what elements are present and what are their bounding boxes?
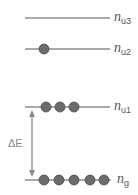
delta-e-arrow-icon bbox=[29, 110, 35, 177]
label-n: n bbox=[114, 40, 121, 55]
particles-u2 bbox=[39, 44, 49, 54]
particle-icon bbox=[85, 175, 95, 185]
particle-icon bbox=[55, 102, 65, 112]
level-label-u2: nu2 bbox=[114, 41, 131, 57]
level-label-u1: nu1 bbox=[114, 99, 131, 115]
particles-u1 bbox=[41, 102, 79, 112]
particle-icon bbox=[99, 175, 109, 185]
label-sub: u2 bbox=[121, 47, 131, 57]
label-sub: g bbox=[124, 178, 129, 188]
particle-icon bbox=[69, 175, 79, 185]
delta-e-label: ΔE bbox=[8, 137, 23, 149]
particle-icon bbox=[69, 102, 79, 112]
label-n: n bbox=[114, 98, 121, 113]
label-n: n bbox=[114, 9, 121, 24]
particle-icon bbox=[39, 44, 49, 54]
particle-icon bbox=[39, 175, 49, 185]
particle-icon bbox=[54, 175, 64, 185]
label-n: n bbox=[117, 171, 124, 186]
level-label-g: ng bbox=[117, 172, 129, 188]
label-sub: u3 bbox=[121, 16, 131, 26]
label-sub: u1 bbox=[121, 105, 131, 115]
level-label-u3: nu3 bbox=[114, 10, 131, 26]
particle-icon bbox=[41, 102, 51, 112]
